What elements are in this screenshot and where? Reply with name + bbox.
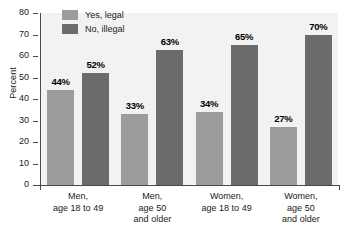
bar-value-label: 34% [200,98,218,109]
bar-legal: 34% [196,112,223,185]
bar-value-label: 63% [161,36,179,47]
x-axis-tick-right [339,185,340,190]
legend: Yes, legalNo, illegal [62,10,125,34]
x-axis-category-line: Men, [115,191,189,203]
y-axis-tick-mark [33,121,38,122]
bar-illegal: 63% [156,50,183,185]
y-axis-tick: 0 [0,185,38,186]
y-axis-tick-label: 80 [19,7,29,18]
bar-illegal: 70% [305,35,332,186]
bar-value-label: 65% [235,31,253,42]
y-axis-tick-label: 30 [19,115,29,126]
legend-item-legal: Yes, legal [62,10,125,20]
bar-value-label: 27% [274,113,292,124]
bar-legal: 44% [47,90,74,185]
y-axis-tick: 50 [0,78,38,79]
bar-value-label: 52% [86,59,104,70]
y-axis-tick-label: 60 [19,50,29,61]
x-axis-category-line: Men, [41,191,115,203]
x-axis-category-labels: Men,age 18 to 49Men,age 50and olderWomen… [41,191,338,235]
y-axis-tick-mark [33,78,38,79]
y-axis-tick-label: 40 [19,93,29,104]
x-axis-tick-left [40,185,41,190]
y-axis-tick: 70 [0,35,38,36]
bar-illegal: 52% [82,73,109,185]
y-axis-tick-label: 50 [19,72,29,83]
x-axis-category-line: Women, [190,191,264,203]
legend-label: Yes, legal [85,10,124,20]
x-axis-category-label: Men,age 18 to 49 [41,191,115,214]
x-axis-category-line: age 18 to 49 [41,203,115,215]
x-axis-category-label: Women,age 18 to 49 [190,191,264,214]
x-axis-category-line: age 18 to 49 [190,203,264,215]
bars-layer: 44%52%33%63%34%65%27%70% [41,13,338,185]
bar-illegal: 65% [231,45,258,185]
legend-label: No, illegal [85,24,125,34]
y-axis-tick-mark [33,99,38,100]
y-axis-title: Percent [8,48,18,118]
y-axis-tick-label: 10 [19,158,29,169]
y-axis-tick: 80 [0,13,38,14]
x-axis-category-line: and older [264,214,338,226]
bar-value-label: 44% [51,76,69,87]
y-axis-tick-label: 0 [24,179,29,190]
x-axis-line [38,185,340,186]
y-axis-tick-mark [33,164,38,165]
x-axis-category-line: age 50 [264,203,338,215]
y-axis-tick-mark [33,13,38,14]
y-axis-tick-label: 20 [19,136,29,147]
x-axis-category-label: Men,age 50and older [115,191,189,226]
y-axis-tick-mark [33,35,38,36]
x-axis-category-line: Women, [264,191,338,203]
x-axis-category-label: Women,age 50and older [264,191,338,226]
legend-swatch-illegal [62,24,78,34]
bar-value-label: 70% [309,21,327,32]
bar-value-label: 33% [126,100,144,111]
y-axis-tick-label: 70 [19,29,29,40]
bar-legal: 33% [121,114,148,185]
y-axis-tick: 40 [0,99,38,100]
y-axis-tick-mark [33,185,38,186]
legend-item-illegal: No, illegal [62,24,125,34]
bar-legal: 27% [270,127,297,185]
x-axis-category-line: age 50 [115,203,189,215]
y-axis-tick: 30 [0,121,38,122]
x-axis-category-line: and older [115,214,189,226]
y-axis-tick-mark [33,142,38,143]
y-axis-tick: 20 [0,142,38,143]
y-axis-tick: 60 [0,56,38,57]
bar-chart: Percent 80706050403020100 44%52%33%63%34… [0,0,351,237]
legend-swatch-legal [62,10,78,20]
y-axis-tick-mark [33,56,38,57]
y-axis-tick: 10 [0,164,38,165]
